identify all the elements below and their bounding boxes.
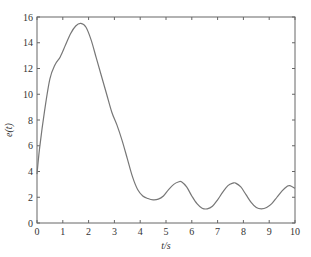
y-tick-label: 12 xyxy=(23,63,33,74)
y-tick-label: 10 xyxy=(23,89,33,100)
x-tick-label: 4 xyxy=(138,226,143,237)
x-tick-label: 0 xyxy=(35,226,40,237)
y-axis-ticks: 0246810121416 xyxy=(23,12,295,229)
y-axis-label: e(t) xyxy=(3,122,15,137)
x-tick-label: 2 xyxy=(86,226,91,237)
line-chart: 012345678910 0246810121416 t/s e(t) xyxy=(0,0,311,257)
x-tick-label: 5 xyxy=(164,226,169,237)
x-tick-label: 8 xyxy=(241,226,246,237)
y-tick-label: 16 xyxy=(23,12,33,23)
x-tick-label: 6 xyxy=(189,226,194,237)
x-tick-label: 3 xyxy=(112,226,117,237)
y-tick-label: 4 xyxy=(28,166,33,177)
x-axis-ticks: 012345678910 xyxy=(35,17,301,237)
x-tick-label: 10 xyxy=(290,226,300,237)
x-tick-label: 1 xyxy=(60,226,65,237)
x-tick-label: 9 xyxy=(267,226,272,237)
y-tick-label: 14 xyxy=(23,37,33,48)
y-tick-label: 0 xyxy=(28,218,33,229)
y-tick-label: 2 xyxy=(28,192,33,203)
x-tick-label: 7 xyxy=(215,226,220,237)
x-axis-label: t/s xyxy=(161,240,171,251)
series-line-e-t xyxy=(37,23,295,209)
y-tick-label: 8 xyxy=(28,115,33,126)
y-tick-label: 6 xyxy=(28,140,33,151)
